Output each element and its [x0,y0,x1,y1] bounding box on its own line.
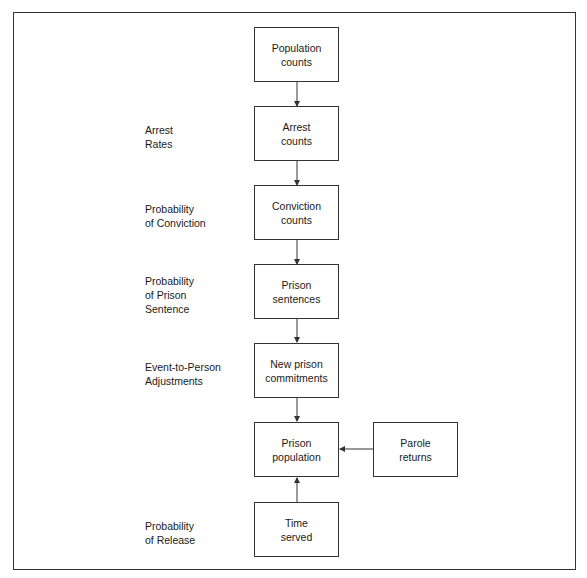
box-parole-returns: Parole returns [373,422,458,477]
box-text: New prison commitments [265,357,327,385]
box-text: Conviction counts [272,199,321,227]
box-new-prison-commitments: New prison commitments [254,343,339,398]
box-arrest-counts: Arrest counts [254,106,339,161]
box-text: Prison sentences [273,278,321,306]
label-probability-of-prison-sentence: Probability of Prison Sentence [145,274,194,316]
box-text: Parole returns [399,436,432,464]
box-prison-population: Prison population [254,422,339,477]
label-probability-of-release: Probability of Release [145,519,195,547]
box-text: Time served [281,516,313,544]
label-arrest-rates: Arrest Rates [145,123,173,151]
label-event-to-person-adjustments: Event-to-Person Adjustments [145,360,221,388]
label-probability-of-conviction: Probability of Conviction [145,202,206,230]
box-text: Prison population [272,436,320,464]
box-prison-sentences: Prison sentences [254,264,339,319]
box-text: Population counts [272,41,322,69]
box-population-counts: Population counts [254,27,339,82]
box-conviction-counts: Conviction counts [254,185,339,240]
box-text: Arrest counts [281,120,312,148]
box-time-served: Time served [254,502,339,557]
